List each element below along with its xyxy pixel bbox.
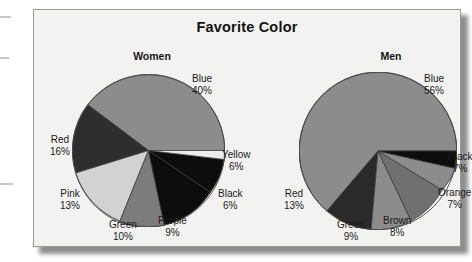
slice-label-name: Pink: [60, 188, 79, 199]
slice-label-pct: 6%: [218, 200, 242, 212]
slice-label-pct: 56%: [424, 85, 444, 97]
slice-label-women-yellow: Yellow 6%: [222, 149, 251, 173]
slice-label-pct: 13%: [284, 200, 304, 212]
slice-label-men-green: Green 9%: [337, 219, 365, 243]
slice-label-women-red: Red 16%: [50, 134, 70, 158]
slice-label-pct: 16%: [50, 146, 70, 158]
slice-label-pct: 13%: [60, 200, 80, 212]
slice-label-pct: 8%: [383, 227, 411, 239]
slice-label-pct: 9%: [158, 227, 187, 239]
slice-label-men-red: Red 13%: [284, 188, 304, 212]
slice-label-men-brown: Brown 8%: [383, 215, 411, 239]
slice-label-pct: 7%: [448, 163, 472, 175]
slice-label-name: Purple: [158, 215, 187, 226]
slice-label-name: Black: [448, 151, 472, 162]
slice-label-men-black: Black 7%: [448, 151, 472, 175]
slice-label-women-purple: Purple 9%: [158, 215, 187, 239]
page-margin-mark: [0, 183, 13, 185]
slice-label-pct: 9%: [337, 231, 365, 243]
slice-label-name: Orange: [438, 187, 471, 198]
figure-frame: Favorite Color Women Men: [33, 9, 461, 247]
slice-label-name: Red: [51, 134, 69, 145]
slice-label-name: Green: [337, 219, 365, 230]
slice-label-name: Black: [218, 188, 242, 199]
slice-label-women-black: Black 6%: [218, 188, 242, 212]
slice-label-men-blue: Blue 56%: [424, 73, 444, 97]
slice-label-name: Red: [285, 188, 303, 199]
slice-label-name: Blue: [192, 73, 212, 84]
slice-label-name: Green: [109, 219, 137, 230]
panel-title-women: Women: [107, 50, 197, 62]
slice-label-name: Blue: [424, 73, 444, 84]
slice-label-name: Yellow: [222, 149, 251, 160]
slice-label-pct: 10%: [109, 231, 137, 243]
page-margin-mark: [0, 57, 9, 59]
chart-title: Favorite Color: [34, 19, 460, 35]
slice-label-pct: 6%: [222, 161, 251, 173]
page-margin-mark: [0, 16, 11, 18]
slice-label-pct: 40%: [192, 85, 212, 97]
slice-label-pct: 7%: [438, 199, 471, 211]
slice-label-women-pink: Pink 13%: [60, 188, 80, 212]
slice-label-name: Brown: [383, 215, 411, 226]
slice-label-women-green: Green 10%: [109, 219, 137, 243]
slice-label-women-blue: Blue 40%: [192, 73, 212, 97]
panel-title-men: Men: [346, 50, 436, 62]
slice-label-men-orange: Orange 7%: [438, 187, 471, 211]
